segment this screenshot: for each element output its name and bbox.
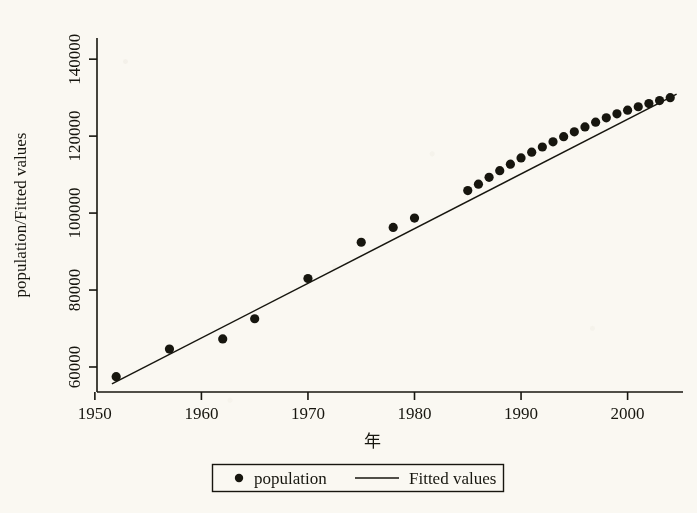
x-tick-label: 1970 xyxy=(291,404,325,423)
fitted-values-line xyxy=(112,94,677,384)
legend-marker-icon xyxy=(235,474,243,482)
x-tick-label: 1960 xyxy=(184,404,218,423)
data-point xyxy=(538,142,547,151)
y-axis-ticks xyxy=(89,59,97,367)
data-point xyxy=(410,213,419,222)
data-point xyxy=(463,186,472,195)
y-tick-label: 140000 xyxy=(65,34,84,85)
data-point xyxy=(474,180,483,189)
data-point xyxy=(623,106,632,115)
x-axis-tick-labels: 195019601970198019902000 xyxy=(78,404,645,423)
data-point xyxy=(602,113,611,122)
data-point xyxy=(112,372,121,381)
data-point xyxy=(591,118,600,127)
data-point xyxy=(548,137,557,146)
x-tick-label: 1990 xyxy=(504,404,538,423)
data-point xyxy=(570,127,579,136)
data-point xyxy=(357,238,366,247)
data-point xyxy=(506,160,515,169)
x-tick-label: 1980 xyxy=(398,404,432,423)
scatter-plot: 6000080000100000120000140000 19501960197… xyxy=(0,0,697,513)
population-data-points xyxy=(112,93,675,381)
x-tick-label: 2000 xyxy=(611,404,645,423)
y-tick-label: 60000 xyxy=(65,346,84,389)
data-point xyxy=(634,102,643,111)
data-point xyxy=(484,173,493,182)
x-axis-ticks xyxy=(95,392,628,400)
data-point xyxy=(527,148,536,157)
x-tick-label: 1950 xyxy=(78,404,112,423)
x-axis-title: 年 xyxy=(364,432,381,451)
figure-canvas: 6000080000100000120000140000 19501960197… xyxy=(0,0,697,513)
data-point xyxy=(218,334,227,343)
y-tick-label: 100000 xyxy=(65,188,84,239)
data-point xyxy=(389,223,398,232)
legend-line-label: Fitted values xyxy=(409,469,496,488)
y-tick-label: 80000 xyxy=(65,269,84,312)
data-point xyxy=(655,96,664,105)
y-axis-title: population/Fitted values xyxy=(11,133,30,298)
data-point xyxy=(165,344,174,353)
data-point xyxy=(250,314,259,323)
data-point xyxy=(612,109,621,118)
data-point xyxy=(666,93,675,102)
data-point xyxy=(516,153,525,162)
data-point xyxy=(644,99,653,108)
data-point xyxy=(580,122,589,131)
data-point xyxy=(559,132,568,141)
y-axis-tick-labels: 6000080000100000120000140000 xyxy=(65,34,84,389)
legend: population Fitted values xyxy=(213,465,504,492)
data-point xyxy=(495,166,504,175)
data-point xyxy=(303,274,312,283)
legend-marker-label: population xyxy=(254,469,327,488)
y-tick-label: 120000 xyxy=(65,111,84,162)
